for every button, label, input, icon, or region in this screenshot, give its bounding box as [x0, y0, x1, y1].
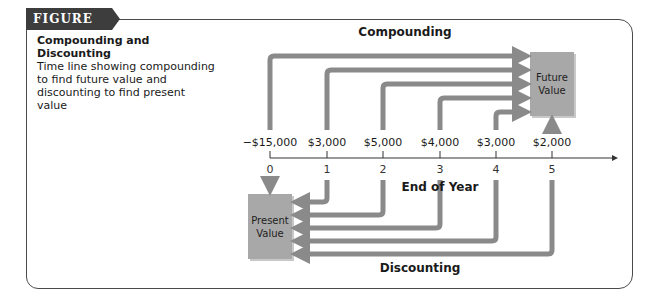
cash-flow-1: $3,000 — [308, 136, 347, 149]
cash-flow-2: $5,000 — [364, 136, 403, 149]
present-value-label-2: Value — [256, 228, 283, 239]
year-1: 1 — [324, 163, 331, 176]
compounding-arrows — [270, 56, 552, 132]
future-value-label-1: Future — [536, 72, 568, 83]
year-5: 5 — [549, 163, 556, 176]
future-value-box — [530, 52, 574, 116]
discount-arrow-year-2 — [300, 180, 383, 215]
axis-label: End of Year — [402, 180, 479, 194]
cash-flow-0: −$15,000 — [243, 136, 298, 149]
year-4: 4 — [493, 163, 500, 176]
compound-arrow-year-4 — [496, 112, 522, 130]
discounting-heading: Discounting — [380, 261, 461, 275]
cash-flow-5: $2,000 — [533, 136, 572, 149]
present-value-label-1: Present — [251, 215, 289, 226]
cash-flow-4: $3,000 — [477, 136, 516, 149]
discount-arrow-year-1 — [300, 180, 327, 202]
timeline-diagram: Compounding Future Value −$15,000 $3,000… — [0, 0, 658, 307]
compounding-heading: Compounding — [358, 25, 451, 39]
year-3: 3 — [437, 163, 444, 176]
present-value-box — [248, 194, 292, 259]
compound-arrow-year-0 — [270, 56, 522, 130]
time-axis — [270, 151, 618, 161]
future-value-label-2: Value — [538, 85, 565, 96]
year-2: 2 — [380, 163, 387, 176]
cash-flow-3: $4,000 — [421, 136, 460, 149]
year-0: 0 — [267, 163, 274, 176]
compound-arrow-year-2 — [383, 84, 522, 130]
